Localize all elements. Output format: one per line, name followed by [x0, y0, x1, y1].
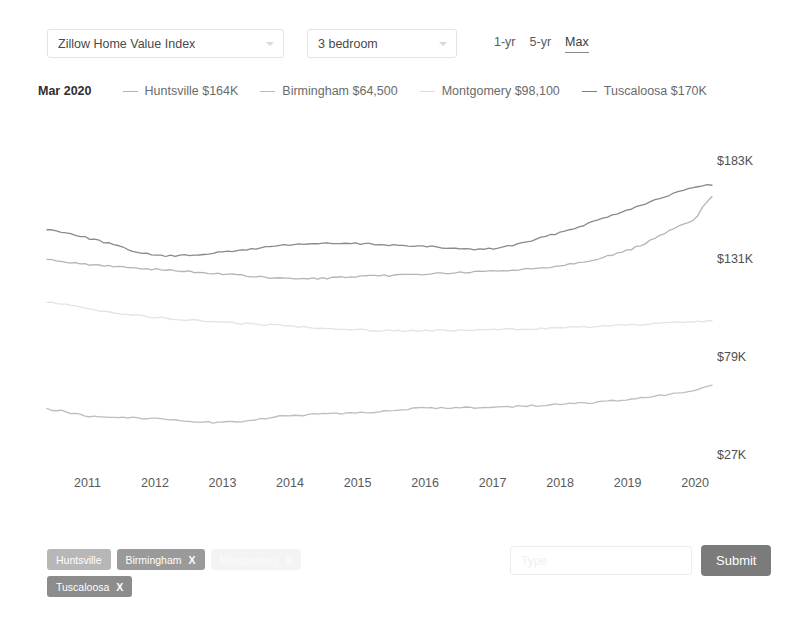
- legend-item-tuscaloosa: Tuscaloosa $170K: [582, 84, 707, 98]
- legend-swatch-birmingham: [260, 91, 275, 92]
- x-axis-labels: 2011201220132014201520162017201820192020: [0, 476, 808, 498]
- legend-item-huntsville: Huntsville $164K: [123, 84, 239, 98]
- zillow-home-value-chart-app: Zillow Home Value Index 3 bedroom 1-yr 5…: [0, 0, 808, 643]
- series-line-huntsville: [47, 197, 712, 280]
- x-tick-label: 2011: [74, 476, 101, 490]
- city-chip-huntsville[interactable]: Huntsville: [47, 549, 111, 570]
- chart-plot-area: [0, 118, 808, 498]
- close-icon[interactable]: X: [285, 554, 292, 566]
- series-line-birmingham: [47, 385, 712, 423]
- chart-legend: Mar 2020 Huntsville $164K Birmingham $64…: [38, 84, 729, 98]
- chevron-down-icon: [266, 42, 274, 46]
- x-tick-label: 2012: [141, 476, 169, 490]
- range-5yr[interactable]: 5-yr: [530, 35, 552, 53]
- x-tick-label: 2018: [546, 476, 574, 490]
- controls-bar: Zillow Home Value Index 3 bedroom 1-yr 5…: [47, 29, 589, 58]
- city-search-input[interactable]: [510, 546, 692, 575]
- legend-label-montgomery: Montgomery $98,100: [442, 84, 560, 98]
- range-1yr[interactable]: 1-yr: [494, 35, 516, 53]
- x-tick-label: 2016: [411, 476, 439, 490]
- city-chip-label: Montgomery: [220, 554, 278, 566]
- bedroom-select[interactable]: 3 bedroom: [307, 29, 457, 58]
- x-tick-label: 2015: [344, 476, 372, 490]
- city-chip-label: Birmingham: [126, 554, 182, 566]
- metric-select[interactable]: Zillow Home Value Index: [47, 29, 284, 58]
- city-chip-label: Tuscaloosa: [56, 581, 109, 593]
- legend-label-tuscaloosa: Tuscaloosa $170K: [604, 84, 707, 98]
- bedroom-select-value: 3 bedroom: [318, 37, 378, 51]
- legend-label-huntsville: Huntsville $164K: [145, 84, 239, 98]
- city-chip-montgomery[interactable]: MontgomeryX: [211, 549, 301, 570]
- chevron-down-icon: [439, 42, 447, 46]
- series-line-montgomery: [47, 302, 712, 331]
- legend-label-birmingham: Birmingham $64,500: [282, 84, 397, 98]
- city-entry-form: Submit: [510, 545, 771, 576]
- legend-swatch-montgomery: [420, 91, 435, 92]
- legend-item-birmingham: Birmingham $64,500: [260, 84, 397, 98]
- x-tick-label: 2013: [209, 476, 237, 490]
- legend-item-montgomery: Montgomery $98,100: [420, 84, 560, 98]
- x-tick-label: 2019: [614, 476, 642, 490]
- series-line-tuscaloosa: [47, 185, 712, 257]
- x-tick-label: 2020: [681, 476, 709, 490]
- x-tick-label: 2014: [276, 476, 304, 490]
- close-icon[interactable]: X: [189, 554, 196, 566]
- city-chip-tuscaloosa[interactable]: TuscaloosaX: [47, 576, 132, 597]
- close-icon[interactable]: X: [116, 581, 123, 593]
- city-chip-label: Huntsville: [56, 554, 102, 566]
- legend-swatch-tuscaloosa: [582, 91, 597, 92]
- city-chip-birmingham[interactable]: BirminghamX: [117, 549, 205, 570]
- selected-city-chips: HuntsvilleBirminghamXMontgomeryXTuscaloo…: [47, 549, 347, 597]
- metric-select-value: Zillow Home Value Index: [58, 37, 195, 51]
- submit-button[interactable]: Submit: [701, 545, 771, 576]
- time-range-toggle-group: 1-yr 5-yr Max: [494, 35, 589, 53]
- range-max[interactable]: Max: [565, 35, 589, 53]
- x-tick-label: 2017: [479, 476, 507, 490]
- legend-swatch-huntsville: [123, 91, 138, 92]
- legend-date: Mar 2020: [38, 84, 92, 98]
- line-chart: $183K$131K$79K$27K: [0, 118, 808, 498]
